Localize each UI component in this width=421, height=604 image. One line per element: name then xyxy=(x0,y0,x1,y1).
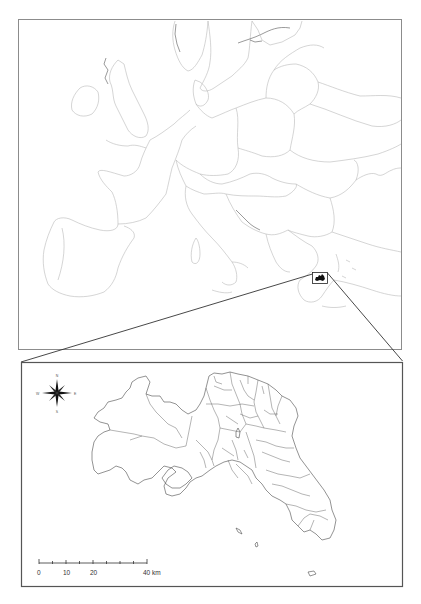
scale-label-20: 20 xyxy=(90,569,98,576)
map-figure: N S E W xyxy=(0,0,421,604)
overview-frame xyxy=(19,20,402,350)
attica-detail-map: N S E W xyxy=(22,363,403,587)
scale-label-0: 0 xyxy=(37,569,41,576)
scale-label-10: 10 xyxy=(63,569,71,576)
detail-frame xyxy=(22,363,403,587)
scale-label-40km: 40 km xyxy=(143,569,161,576)
europe-overview-map xyxy=(19,20,402,350)
